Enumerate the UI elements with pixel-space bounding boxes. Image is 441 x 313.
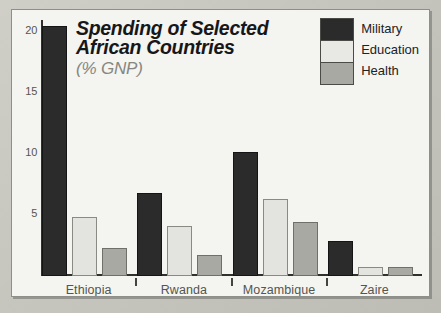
bar-education-rwanda xyxy=(167,226,192,276)
bar-education-mozambique xyxy=(263,199,288,276)
legend-swatch-military xyxy=(321,19,353,41)
legend-labels: MilitaryEducationHealth xyxy=(361,18,419,85)
bar-health-ethiopia xyxy=(102,248,127,276)
bar-military-mozambique xyxy=(233,152,258,276)
plot-area: 2015105 EthiopiaRwandaMozambiqueZaire Sp… xyxy=(12,10,430,297)
y-tick-label: 15 xyxy=(12,85,37,97)
y-tick-label: 5 xyxy=(12,207,37,219)
y-tick-label: 20 xyxy=(12,24,37,36)
bar-education-zaire xyxy=(358,267,383,276)
chart-legend: MilitaryEducationHealth xyxy=(320,18,419,85)
chart-frame: 2015105 EthiopiaRwandaMozambiqueZaire Sp… xyxy=(0,0,441,313)
bar-education-ethiopia xyxy=(72,217,97,276)
chart-title-block: Spending of Selected African Countries (… xyxy=(76,19,276,79)
bar-military-rwanda xyxy=(137,193,162,277)
bar-military-zaire xyxy=(328,241,353,276)
legend-swatch-education xyxy=(321,41,353,63)
bar-health-mozambique xyxy=(293,222,318,276)
legend-swatches xyxy=(320,18,354,85)
chart-subtitle: (% GNP) xyxy=(76,59,276,79)
x-axis-labels: EthiopiaRwandaMozambiqueZaire xyxy=(41,278,422,297)
x-label-ethiopia: Ethiopia xyxy=(41,283,136,297)
x-label-zaire: Zaire xyxy=(327,283,422,297)
bar-health-zaire xyxy=(388,267,413,276)
x-label-mozambique: Mozambique xyxy=(232,283,327,297)
legend-label-health: Health xyxy=(361,60,419,81)
bar-military-ethiopia xyxy=(42,26,67,276)
legend-label-military: Military xyxy=(361,18,419,39)
chart-title-line-2: African Countries xyxy=(76,38,276,57)
legend-swatch-health xyxy=(321,63,353,84)
x-label-rwanda: Rwanda xyxy=(136,283,231,297)
legend-label-education: Education xyxy=(361,39,419,60)
y-tick-label: 10 xyxy=(12,146,37,158)
chart-panel: 2015105 EthiopiaRwandaMozambiqueZaire Sp… xyxy=(11,9,430,297)
bar-health-rwanda xyxy=(197,255,222,276)
